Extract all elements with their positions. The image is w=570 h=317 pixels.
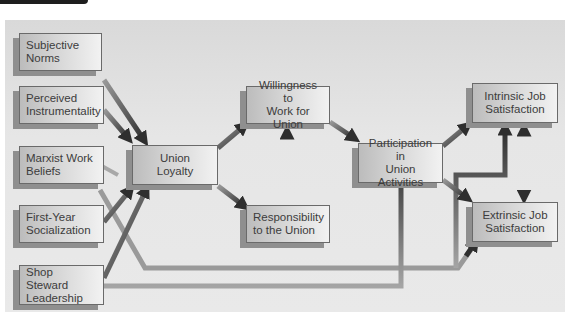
arrow-loyalty-to-willingness [218, 126, 244, 148]
node-label: Responsibility [253, 211, 324, 224]
node-label: to the Union [253, 224, 324, 237]
arrow-willingness-to-participation [330, 122, 354, 138]
node-marxist-work-beliefs: Marxist WorkBeliefs [19, 146, 104, 184]
node-label: Willingness to [253, 79, 323, 105]
node-willingness-to-work: Willingness toWork for Union [246, 86, 330, 124]
node-label: Marxist Work [26, 152, 93, 165]
node-label: Perceived [26, 92, 101, 105]
node-label: Work for Union [253, 105, 323, 131]
node-union-loyalty: UnionLoyalty [132, 145, 218, 185]
node-label: Leadership [26, 292, 97, 305]
node-label: Satisfaction [484, 103, 545, 116]
node-shop-steward-leadership: Shop StewardLeadership [19, 265, 104, 305]
node-label: Socialization [26, 224, 91, 237]
node-extrinsic-job-satisfaction: Extrinsic JobSatisfaction [472, 202, 558, 242]
node-responsibility-to-union: Responsibilityto the Union [246, 205, 330, 243]
node-label: Beliefs [26, 165, 93, 178]
node-label: Intrinsic Job [484, 90, 545, 103]
node-subjective-norms: SubjectiveNorms [19, 33, 102, 71]
node-intrinsic-job-satisfaction: Intrinsic JobSatisfaction [472, 83, 558, 123]
node-first-year-socialization: First-YearSocialization [19, 205, 104, 243]
node-label: Instrumentality [26, 105, 101, 118]
arrow-participation-to-intrinsic [443, 126, 467, 146]
node-perceived-instrumentality: PerceivedInstrumentality [19, 86, 104, 124]
node-label: First-Year [26, 211, 91, 224]
node-label: Shop Steward [26, 266, 97, 292]
node-label: Union Activities [365, 163, 436, 189]
node-label: Satisfaction [482, 222, 547, 235]
node-label: Loyalty [157, 165, 193, 178]
node-label: Participation in [365, 137, 436, 163]
node-participation: Participation inUnion Activities [358, 143, 443, 183]
node-label: Norms [26, 52, 79, 65]
arrow-loyalty-to-responsibility [218, 186, 244, 206]
node-label: Subjective [26, 39, 79, 52]
node-label: Extrinsic Job [482, 209, 547, 222]
node-label: Union [157, 152, 193, 165]
